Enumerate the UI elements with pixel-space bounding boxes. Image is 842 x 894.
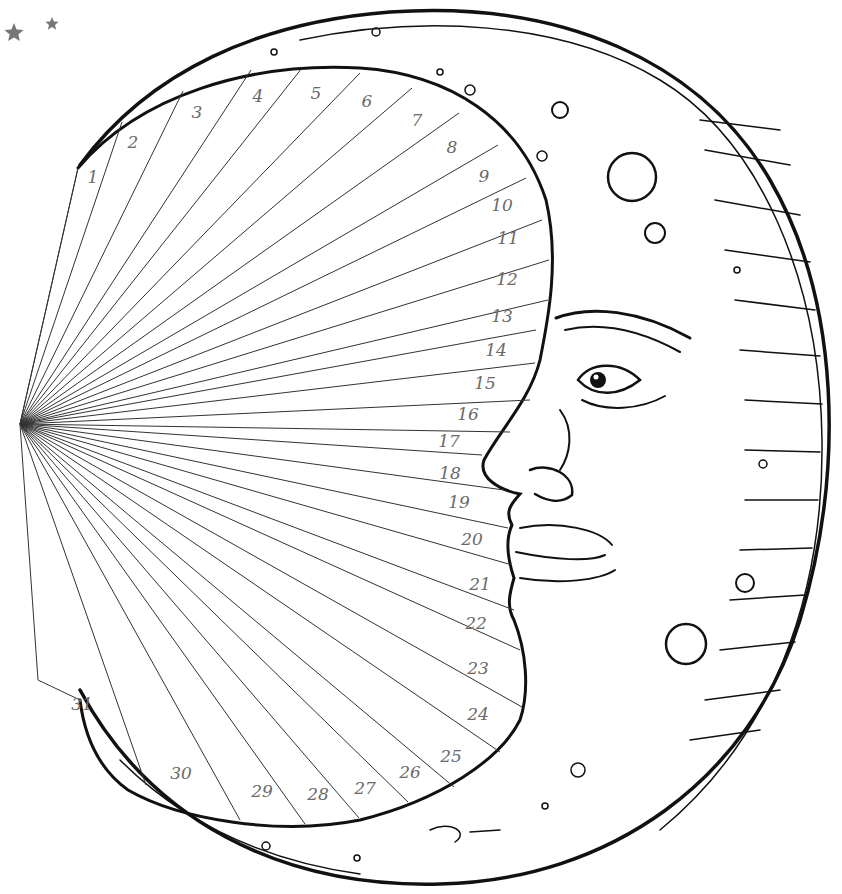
day-number-label[interactable]: 18: [439, 463, 461, 483]
day-number-label[interactable]: 5: [311, 83, 322, 103]
day-labels: 1234567891011121314151617181920212223242…: [71, 83, 519, 804]
day-number-label[interactable]: 11: [497, 228, 519, 248]
day-number-label[interactable]: 7: [412, 110, 423, 130]
day-number-label[interactable]: 24: [466, 704, 489, 724]
day-number-label[interactable]: 22: [464, 613, 487, 633]
day-divider-line: [20, 88, 412, 424]
day-number-label[interactable]: 30: [170, 763, 192, 783]
day-number-label[interactable]: 6: [362, 91, 373, 111]
day-number-label[interactable]: 25: [439, 746, 462, 766]
day-number-label[interactable]: 8: [447, 137, 458, 157]
day-divider-line: [20, 70, 251, 424]
day-divider-line: [20, 400, 530, 424]
day-number-label[interactable]: 16: [457, 404, 479, 424]
day-number-label[interactable]: 31: [71, 694, 93, 714]
day-number-label[interactable]: 3: [192, 102, 203, 122]
day-number-label[interactable]: 14: [485, 340, 507, 360]
day-number-label[interactable]: 2: [127, 132, 139, 152]
day-divider-line: [20, 424, 508, 528]
moon-illustration: 1234567891011121314151617181920212223242…: [0, 0, 842, 894]
day-number-label[interactable]: 27: [353, 778, 376, 798]
day-number-label[interactable]: 4: [252, 86, 264, 106]
day-divider-line: [20, 424, 146, 785]
day-number-label[interactable]: 1: [88, 167, 99, 187]
day-number-label[interactable]: 21: [468, 574, 491, 594]
day-divider-line: [20, 178, 526, 424]
day-divider-line: [20, 424, 454, 787]
day-number-label[interactable]: 9: [479, 166, 490, 186]
day-divider-line: [20, 122, 122, 424]
day-number-label[interactable]: 17: [438, 431, 460, 451]
day-number-label[interactable]: 12: [496, 269, 518, 289]
star-icon: [45, 17, 58, 30]
stars-group: [5, 17, 59, 41]
day-divider-line: [20, 424, 510, 432]
day-number-label[interactable]: 19: [448, 492, 470, 512]
day-divider-line: [20, 424, 408, 802]
day-number-label[interactable]: 23: [466, 658, 489, 678]
day-number-label[interactable]: 20: [460, 529, 483, 549]
star-icon: [5, 23, 24, 41]
day-number-label[interactable]: 29: [250, 781, 273, 801]
day-divider-line: [20, 424, 305, 824]
day-number-label[interactable]: 15: [474, 373, 496, 393]
day-number-label[interactable]: 10: [491, 195, 513, 215]
day-number-label[interactable]: 13: [491, 306, 513, 326]
day-divider-line: [20, 68, 302, 424]
day-number-label[interactable]: 26: [398, 762, 421, 782]
day-number-label[interactable]: 28: [306, 784, 329, 804]
